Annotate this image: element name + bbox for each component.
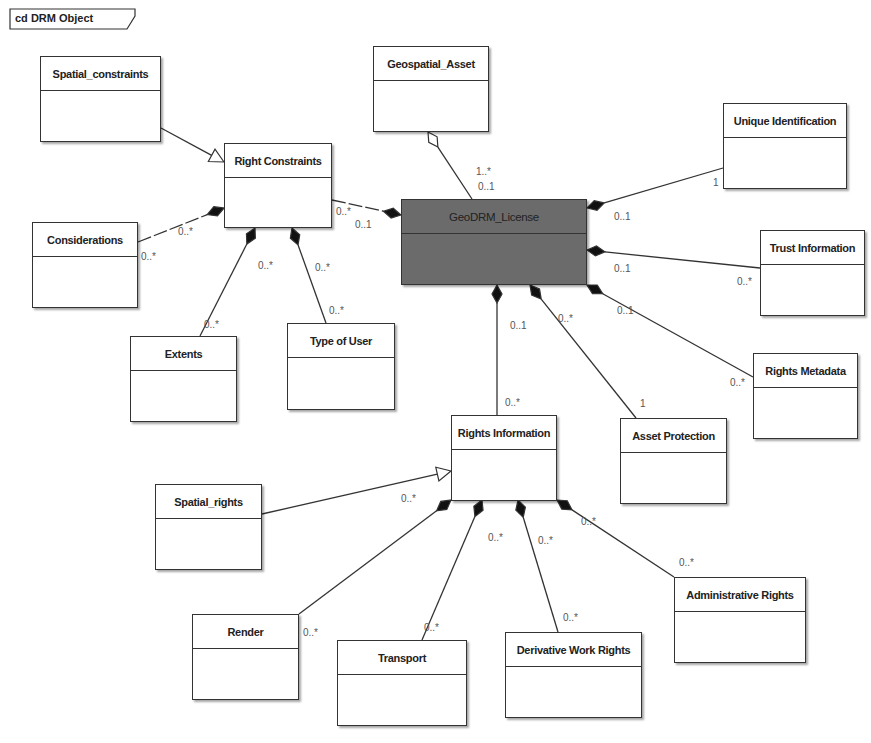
composition-link <box>516 500 558 632</box>
class-administrative-rights[interactable]: Administrative Rights <box>674 577 806 663</box>
frame-title: cd DRM Object <box>15 12 93 24</box>
composition-link <box>587 246 760 268</box>
class-name: Trust Information <box>761 231 864 265</box>
multiplicity-label: 0..1 <box>617 305 634 316</box>
multiplicity-label: 0..* <box>488 532 503 543</box>
class-name: Rights Metadata <box>754 354 857 388</box>
multiplicity-label: 1 <box>640 398 646 409</box>
class-transport[interactable]: Transport <box>337 640 467 726</box>
class-rights-metadata[interactable]: Rights Metadata <box>753 353 858 439</box>
class-extents[interactable]: Extents <box>130 336 237 422</box>
multiplicity-label: 0..* <box>730 377 745 388</box>
multiplicity-label: 1 <box>713 177 719 188</box>
class-unique-identification[interactable]: Unique Identification <box>723 103 847 189</box>
class-name: Transport <box>338 641 466 675</box>
class-name: Unique Identification <box>724 104 846 138</box>
composition-diamond-icon <box>290 228 299 245</box>
generalization-arrow-icon <box>436 467 451 481</box>
multiplicity-label: 0..* <box>204 319 219 330</box>
class-right-constraints[interactable]: Right Constraints <box>224 143 332 228</box>
class-geospatial-asset[interactable]: Geospatial_Asset <box>373 46 489 132</box>
multiplicity-label: 0..* <box>424 622 439 633</box>
multiplicity-label: 0..* <box>538 535 553 546</box>
class-name: Spatial_constraints <box>41 57 160 91</box>
composition-diamond-icon <box>474 500 483 517</box>
composition-diamond-icon <box>207 207 224 216</box>
composition-diamond-icon <box>516 500 526 517</box>
class-spatial-rights[interactable]: Spatial_rights <box>155 484 262 570</box>
class-geodrm-license[interactable]: GeoDRM_License <box>401 199 587 285</box>
multiplicity-label: 0..1 <box>355 219 372 230</box>
multiplicity-label: 0..* <box>315 262 330 273</box>
class-name: Type of User <box>288 324 394 358</box>
generalization-link <box>262 467 451 514</box>
class-name: Derivative Work Rights <box>506 633 641 667</box>
multiplicity-label: 0..1 <box>614 263 631 274</box>
class-spatial-constraints[interactable]: Spatial_constraints <box>40 56 161 142</box>
multiplicity-label: 0..* <box>329 305 344 316</box>
multiplicity-label: 0..* <box>401 493 416 504</box>
class-rights-information[interactable]: Rights Information <box>451 415 557 501</box>
class-name: Administrative Rights <box>675 578 805 612</box>
class-trust-information[interactable]: Trust Information <box>760 230 865 316</box>
composition-diamond-icon <box>587 201 604 211</box>
class-render[interactable]: Render <box>192 614 299 700</box>
class-type-of-user[interactable]: Type of User <box>287 323 395 410</box>
multiplicity-label: 1..* <box>476 166 491 177</box>
composition-diamond-icon <box>437 500 451 511</box>
composition-link <box>299 500 451 614</box>
multiplicity-label: 0..1 <box>478 181 495 192</box>
multiplicity-label: 0..* <box>505 397 520 408</box>
multiplicity-label: 0..* <box>563 612 578 623</box>
aggregation-diamond-icon <box>428 132 438 147</box>
multiplicity-label: 0..1 <box>510 320 527 331</box>
composition-diamond-icon <box>246 228 255 244</box>
aggregation-link <box>428 132 472 199</box>
composition-link <box>557 500 674 577</box>
class-name: Render <box>193 615 298 649</box>
class-name: Right Constraints <box>225 144 331 178</box>
composition-diamond-icon <box>587 285 603 294</box>
composition-link <box>290 228 326 323</box>
composition-link <box>587 168 723 210</box>
multiplicity-label: 0..* <box>258 260 273 271</box>
multiplicity-label: 0..* <box>679 557 694 568</box>
class-name: Extents <box>131 337 236 371</box>
multiplicity-label: 0..* <box>141 251 156 262</box>
class-name: Rights Information <box>452 416 556 450</box>
multiplicity-label: 0..* <box>558 313 573 324</box>
class-asset-protection[interactable]: Asset Protection <box>620 418 727 504</box>
class-derivative-work-rights[interactable]: Derivative Work Rights <box>505 632 642 718</box>
multiplicity-label: 0..* <box>303 627 318 638</box>
generalization-arrow-icon <box>208 149 224 162</box>
composition-diamond-icon <box>383 208 401 218</box>
generalization-link <box>161 128 224 162</box>
composition-diamond-icon <box>557 500 572 510</box>
class-name: Geospatial_Asset <box>374 47 488 81</box>
class-name: Asset Protection <box>621 419 726 453</box>
multiplicity-label: 0..* <box>737 276 752 287</box>
class-name: GeoDRM_License <box>402 200 586 234</box>
class-considerations[interactable]: Considerations <box>32 222 138 308</box>
composition-diamond-icon <box>492 285 502 303</box>
multiplicity-label: 0..1 <box>614 211 631 222</box>
class-name: Spatial_rights <box>156 485 261 519</box>
composition-link <box>422 500 483 640</box>
class-name: Considerations <box>33 223 137 257</box>
multiplicity-label: 0..* <box>336 206 351 217</box>
uml-class-diagram: cd DRM Object Spatial_constraintsRight C… <box>0 0 871 743</box>
composition-link <box>587 285 753 377</box>
composition-link <box>492 285 502 415</box>
composition-diamond-icon <box>587 246 605 256</box>
multiplicity-label: 0..* <box>178 226 193 237</box>
composition-diamond-icon <box>530 285 541 299</box>
multiplicity-label: 0..* <box>581 516 596 527</box>
